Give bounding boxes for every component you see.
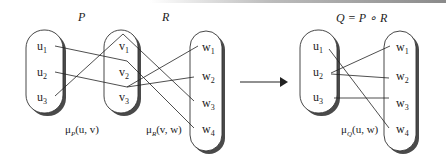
node-v2: v2 <box>119 66 129 81</box>
node-u2-left: u2 <box>37 66 47 81</box>
node-w3-right: w3 <box>396 97 409 112</box>
node-u2-right: u2 <box>313 66 323 81</box>
membership-q-label: μQ(u, w) <box>341 124 378 138</box>
node-w3-left: w3 <box>202 97 215 112</box>
relation-q-label: Q = P ∘ R <box>336 12 387 24</box>
node-v1: v1 <box>119 40 129 55</box>
right-arrow-icon <box>240 77 288 87</box>
membership-r-label: μR(v, w) <box>146 124 182 138</box>
node-u3-right: u3 <box>313 91 323 106</box>
node-w1-right: w1 <box>396 41 409 56</box>
node-w4-right: w4 <box>396 123 409 138</box>
relation-r-label: R <box>162 11 169 23</box>
node-w2-left: w2 <box>202 70 215 85</box>
relation-p-label: P <box>78 11 85 23</box>
node-w2-right: w2 <box>396 70 409 85</box>
membership-p-label: μP(u, v) <box>65 124 99 138</box>
node-v3: v3 <box>119 91 129 106</box>
node-w4-left: w4 <box>202 123 215 138</box>
node-u1-left: u1 <box>37 40 47 55</box>
node-w1-left: w1 <box>202 41 215 56</box>
node-u1-right: u1 <box>313 40 323 55</box>
node-u3-left: u3 <box>37 91 47 106</box>
